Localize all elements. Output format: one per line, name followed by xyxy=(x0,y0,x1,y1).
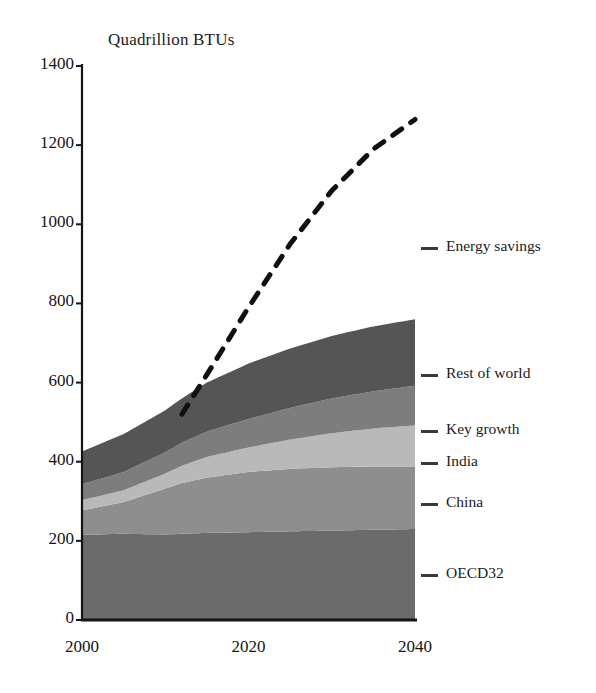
legend-marker-dash xyxy=(421,374,438,377)
legend-item-energy-savings[interactable]: Energy savings xyxy=(446,237,541,255)
y-tick-label: 600 xyxy=(20,372,74,389)
legend-marker-dash xyxy=(421,574,438,577)
y-tick-label: 400 xyxy=(20,451,74,468)
y-tick-label: 0 xyxy=(20,609,74,626)
area-band-oecd32 xyxy=(82,529,415,620)
legend-item-oecd32[interactable]: OECD32 xyxy=(446,564,504,582)
legend-item-rest-of-world[interactable]: Rest of world xyxy=(446,364,530,382)
x-tick-label: 2020 xyxy=(209,637,289,657)
y-tick-label: 1400 xyxy=(20,55,74,72)
legend-marker-dash xyxy=(421,247,438,250)
area-bands xyxy=(82,319,415,620)
stacked-area-plot xyxy=(0,0,596,693)
legend-item-key-growth[interactable]: Key growth xyxy=(446,420,520,438)
x-tick-label: 2000 xyxy=(42,637,122,657)
legend-item-india[interactable]: India xyxy=(446,452,478,470)
x-tick-label: 2040 xyxy=(375,637,455,657)
y-tick-label: 1200 xyxy=(20,134,74,151)
legend-marker-dash xyxy=(421,503,438,506)
y-tick-label: 800 xyxy=(20,292,74,309)
legend-marker-dash xyxy=(421,430,438,433)
legend-marker-dash xyxy=(421,462,438,465)
legend-item-china[interactable]: China xyxy=(446,493,483,511)
chart-canvas: Quadrillion BTUs 02004006008001000120014… xyxy=(0,0,596,693)
y-tick-label: 200 xyxy=(20,530,74,547)
y-tick-label: 1000 xyxy=(20,213,74,230)
